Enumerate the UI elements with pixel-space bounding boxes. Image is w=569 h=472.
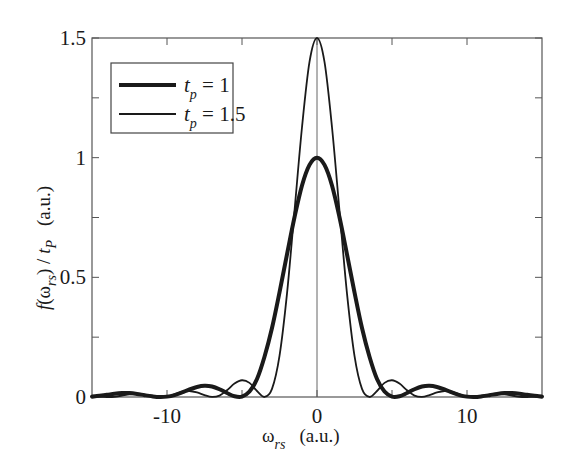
x-axis-label: ωrs(a.u.): [262, 425, 340, 452]
y-tick-label: 1.5: [60, 26, 86, 50]
y-tick-label: 1: [76, 146, 87, 170]
y-tick-label: 0.5: [60, 265, 86, 289]
y-label-unit: (a.u.): [33, 186, 55, 226]
y-label-sub2: P: [44, 240, 59, 250]
y-tick-label: 0: [76, 385, 87, 409]
x-label-unit: (a.u.): [299, 425, 339, 447]
x-tick-label: 10: [457, 404, 478, 428]
svg-text:ωrs(a.u.): ωrs(a.u.): [262, 425, 340, 452]
svg-text:f(ωrs) / tP(a.u.): f(ωrs) / tP(a.u.): [33, 186, 59, 310]
chart: -10010 00.511.5 ωrs(a.u.) f(ωrs) / tP(a.…: [0, 0, 569, 472]
y-label-sub1: rs: [44, 274, 59, 285]
x-label-sub: rs: [275, 437, 286, 452]
x-label-omega: ω: [262, 425, 275, 446]
y-axis-label: f(ωrs) / tP(a.u.): [33, 186, 59, 310]
y-label-open: (ω: [33, 286, 55, 305]
x-tick-label: -10: [153, 404, 181, 428]
y-label-close: ) /: [33, 254, 55, 275]
legend: tp = 1 tp = 1.5: [111, 63, 245, 133]
y-tick-labels: 00.511.5: [60, 26, 86, 409]
